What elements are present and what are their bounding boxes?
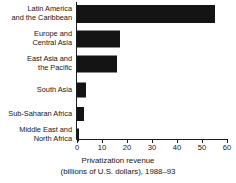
bar-row: Europe and Central Asia (0, 27, 236, 51)
bar-latin-america-and-the-caribbean (77, 5, 215, 23)
x-tick-label: 10 (90, 143, 114, 152)
category-label: Latin America and the Caribbean (0, 5, 72, 22)
category-label: East Asia and the Pacific (0, 55, 72, 72)
bar-europe-and-central-asia (77, 31, 120, 48)
bar-south-asia (77, 83, 86, 98)
bar-row: Latin America and the Caribbean (0, 2, 236, 26)
x-tick-label: 30 (140, 143, 164, 152)
privatization-revenue-bar-chart: Latin America and the Caribbean Europe a… (0, 0, 236, 183)
x-tick-label: 50 (190, 143, 214, 152)
x-tick-label: 40 (165, 143, 189, 152)
x-axis-title-line-1: Privatization revenue (0, 155, 236, 166)
bar-row: East Asia and the Pacific (0, 52, 236, 76)
y-axis-line (76, 2, 77, 139)
category-label: Europe and Central Asia (0, 30, 72, 47)
x-tick-label: 0 (65, 143, 89, 152)
x-tick-label: 20 (115, 143, 139, 152)
x-axis-title-line-2: (billions of U.S. dollars), 1988–93 (0, 166, 236, 177)
bar-sub-saharan-africa (77, 107, 84, 121)
bar-east-asia-and-the-pacific (77, 56, 117, 73)
plot-area: Latin America and the Caribbean Europe a… (0, 0, 236, 145)
bar-row: South Asia (0, 78, 236, 102)
x-axis-caption: Privatization revenue (billions of U.S. … (0, 155, 236, 177)
category-label: Sub-Saharan Africa (0, 110, 72, 119)
x-tick-label: 60 (215, 143, 236, 152)
category-label: South Asia (0, 86, 72, 95)
category-label: Middle East and North Africa (0, 126, 72, 143)
